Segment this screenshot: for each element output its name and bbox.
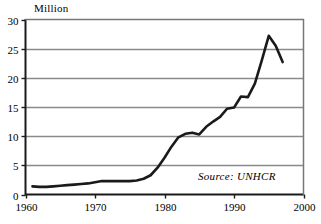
data-series-line: [32, 36, 282, 187]
x-axis-ticks-group: 19601970198019902000: [16, 195, 317, 213]
chart-container: Million 051015202530 1960197019801990200…: [0, 0, 321, 224]
gridlines-group: [26, 50, 304, 166]
y-axis-tick-label: 30: [8, 15, 20, 27]
y-axis-ticks-group: 051015202530: [8, 15, 26, 202]
x-axis-tick-label: 1970: [85, 201, 108, 213]
y-axis-tick-label: 25: [8, 44, 20, 56]
x-axis-tick-label: 1960: [16, 201, 39, 213]
y-axis-tick-label: 10: [8, 131, 20, 143]
y-axis-tick-label: 15: [8, 102, 20, 114]
x-axis-tick-label: 1990: [224, 201, 247, 213]
y-axis-tick-label: 5: [13, 160, 19, 172]
x-axis-tick-label: 1980: [155, 201, 178, 213]
y-axis-tick-label: 20: [8, 73, 20, 85]
source-annotation: Source: UNHCR: [198, 170, 276, 182]
x-axis-tick-label: 2000: [294, 201, 317, 213]
line-chart-plot: 051015202530 19601970198019902000: [0, 0, 321, 224]
